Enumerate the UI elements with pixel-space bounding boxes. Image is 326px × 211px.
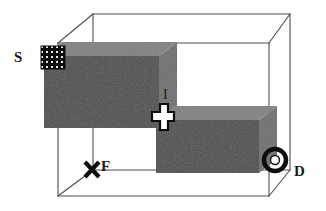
label-destination: D [294,164,305,179]
start-marker [41,46,65,69]
label-start: S [14,50,22,65]
ring-icon-inner [271,156,280,165]
cube-edge-depth-top-left [58,14,93,43]
cube-diagram-svg [0,0,326,211]
label-floor-mark: F [101,159,110,174]
label-intermediate: I [163,88,168,102]
diagram-canvas: S I F D [0,0,326,211]
obstacle-right-front-face [156,120,259,173]
cube-edge-depth-top-right [269,14,290,43]
checkered-square-icon [41,46,65,69]
cube-edge-depth-bottom-right [269,170,290,196]
